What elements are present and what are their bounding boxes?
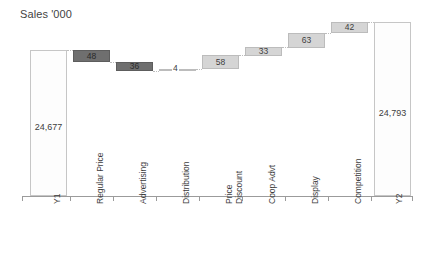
axis-tick-6 (285, 196, 286, 201)
x-label-price-discount-line1: Price (224, 185, 234, 204)
bar-coop-advt[interactable]: 33 (245, 47, 282, 56)
connector-advertising-distribution (153, 71, 159, 72)
bar-value-price-discount: 58 (216, 58, 225, 67)
bar-value-advertising: 36 (130, 62, 139, 71)
axis-tick-8 (371, 196, 372, 201)
axis-tick-7 (328, 196, 329, 201)
chart-title: Sales '000 (20, 8, 72, 20)
bar-value-y2: 24,793 (379, 109, 407, 118)
axis-tick-9 (412, 196, 413, 201)
bar-value-display: 63 (302, 36, 311, 45)
bar-y2[interactable]: 24,793 (374, 22, 411, 196)
bar-value-regular-price: 48 (87, 52, 96, 61)
bar-advertising[interactable]: 36 (116, 62, 153, 71)
x-label-display-text: Display (310, 176, 320, 204)
axis-tick-1 (70, 196, 71, 201)
axis-tick-3 (156, 196, 157, 201)
bar-display[interactable]: 63 (288, 33, 325, 48)
x-label-advertising-text: Advertising (138, 162, 148, 204)
x-label-competition-text: Competition (353, 159, 363, 204)
bar-value-distribution: 4 (172, 64, 179, 73)
axis-tick-2 (113, 196, 114, 201)
x-label-coop-advt-text: Coop Advt (267, 165, 277, 204)
connector-display-competition (325, 33, 331, 34)
axis-tick-4 (199, 196, 200, 201)
x-label-distribution-text: Distribution (181, 161, 191, 204)
bar-value-coop-advt: 33 (259, 47, 268, 56)
bar-competition[interactable]: 42 (331, 22, 368, 33)
bar-price-discount[interactable]: 58 (202, 55, 239, 69)
x-label-y2-text: Y2 (394, 194, 404, 204)
bar-y1[interactable]: 24,677 (30, 50, 67, 196)
connector-distribution-price-discount (196, 69, 202, 70)
x-label-y1-text: Y1 (52, 194, 62, 204)
bar-value-y1: 24,677 (35, 123, 63, 132)
waterfall-chart: Sales '000 24,677 48 36 4 58 33 63 42 24 (0, 0, 433, 273)
x-label-regular-price-text: Regular Price (95, 153, 105, 205)
axis-tick-0 (22, 196, 23, 201)
bar-regular-price[interactable]: 48 (73, 50, 110, 62)
bar-value-competition: 42 (345, 23, 354, 32)
x-label-price-discount-line2: Discount (234, 171, 244, 204)
